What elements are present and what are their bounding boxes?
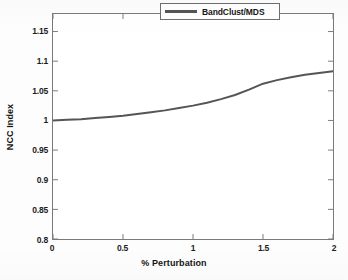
x-tick-label: 0 <box>50 243 55 253</box>
y-tick-label: 1.05 <box>0 86 48 96</box>
x-tick-label: 1.5 <box>258 243 269 253</box>
y-tick-label: 1.1 <box>0 56 48 66</box>
axis-tick-marks <box>53 14 333 239</box>
chart-figure: NCC Index 0.80.850.90.9511.051.11.15 00.… <box>0 0 348 280</box>
legend-line-swatch <box>165 10 197 13</box>
x-tick-label: 0.5 <box>117 243 128 253</box>
y-tick-label: 0.95 <box>0 145 48 155</box>
y-tick-label: 0.9 <box>0 175 48 185</box>
y-axis-title: NCC Index <box>5 103 15 149</box>
y-tick-label: 0.8 <box>0 235 48 245</box>
x-tick-label: 1 <box>191 243 196 253</box>
plot-area <box>52 13 334 240</box>
x-tick-label: 2 <box>332 243 337 253</box>
legend: BandClust/MDS <box>160 3 280 20</box>
y-tick-label: 1 <box>0 115 48 125</box>
data-series-group <box>53 71 333 120</box>
y-tick-label: 0.85 <box>0 205 48 215</box>
y-tick-label: 1.15 <box>0 26 48 36</box>
plot-canvas <box>53 14 333 239</box>
data-line-bandclust-mds <box>53 71 333 120</box>
legend-label-bandclust-mds: BandClust/MDS <box>202 7 264 17</box>
x-axis-title: % Perturbation <box>0 258 348 268</box>
